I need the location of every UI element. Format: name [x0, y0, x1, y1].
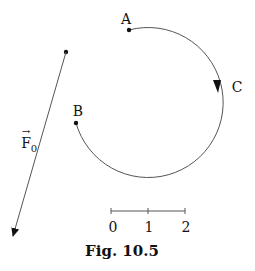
force-label-subscript: 0	[31, 143, 37, 154]
figure-caption: Fig. 10.5	[85, 242, 159, 260]
point-b-label: B	[73, 103, 83, 119]
point-a-label: A	[120, 11, 132, 27]
figure-diagram: A B C → F 0 0 1 2 Fig. 10.5	[0, 0, 255, 271]
force-label: F	[21, 135, 31, 151]
scale-label-0: 0	[109, 219, 118, 235]
point-a-dot	[127, 28, 131, 32]
scale-label-2: 2	[182, 219, 191, 235]
point-c-label: C	[232, 79, 243, 95]
point-b-dot	[74, 121, 78, 125]
circular-path	[76, 28, 223, 178]
scale-label-1: 1	[145, 219, 154, 235]
direction-arrowhead	[213, 80, 221, 93]
